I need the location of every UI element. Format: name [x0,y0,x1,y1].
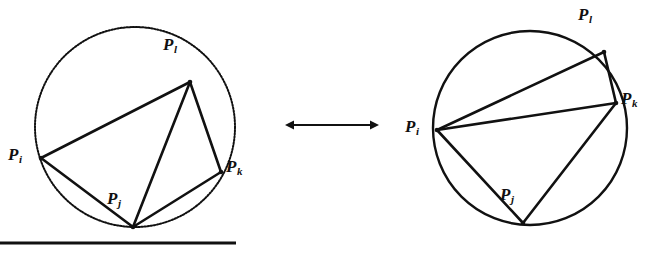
vertex-label-subscript: i [416,125,419,137]
vertex-label-subscript: k [632,97,638,109]
edge-right-Pj-Pk [523,103,616,223]
vertex-label-base: P [578,5,588,24]
vertex-dot-right-Pk [614,101,619,106]
arrow-head-left [285,121,294,130]
vertex-dot-right-Pj [521,221,526,226]
vertex-dot-left-Pk [219,170,224,175]
figure-canvas: PlPiPjPkPlPiPjPk [0,0,659,254]
vertex-label-base: P [8,145,18,164]
arrow-head-right [370,121,379,130]
vertex-label-base: P [163,35,173,54]
vertex-label-base: P [500,185,510,204]
vertex-label-right-Pi: Pi [405,118,418,135]
vertex-dot-right-Pl [602,50,607,55]
edge-left-Pj-Pl [133,82,190,227]
vertex-label-left-Pj: Pj [107,190,120,207]
vertex-label-right-Pk: Pk [621,90,637,107]
transformation-arrow-layer [285,121,379,130]
vertex-label-subscript: j [511,193,514,205]
vertex-dot-left-Pj [131,225,136,230]
diagram-svg [0,0,659,254]
vertex-label-left-Pl: Pl [163,36,176,53]
vertex-label-subscript: l [589,13,592,25]
triangulation-edge-layer [41,52,616,227]
circumcircle-layer [35,27,627,227]
vertex-label-left-Pk: Pk [226,158,242,175]
vertex-label-subscript: i [19,153,22,165]
vertex-dot-left-Pl [188,80,193,85]
edge-left-Pj-Pk [133,172,221,227]
vertex-label-base: P [405,117,415,136]
vertex-dot-right-Pi [435,128,440,133]
edge-left-Pl-Pk [190,82,221,172]
edge-right-Pi-Pj [437,130,523,223]
vertex-label-right-Pl: Pl [578,6,591,23]
vertex-label-base: P [621,89,631,108]
vertex-label-right-Pj: Pj [500,186,513,203]
vertex-label-subscript: l [174,43,177,55]
edge-left-Pi-Pl [41,82,190,158]
vertex-label-left-Pi: Pi [8,146,21,163]
vertex-label-subscript: j [118,197,121,209]
vertex-label-subscript: k [237,165,243,177]
vertex-label-base: P [107,189,117,208]
vertex-dot-layer [39,50,619,230]
vertex-label-base: P [226,157,236,176]
vertex-dot-left-Pi [39,156,44,161]
